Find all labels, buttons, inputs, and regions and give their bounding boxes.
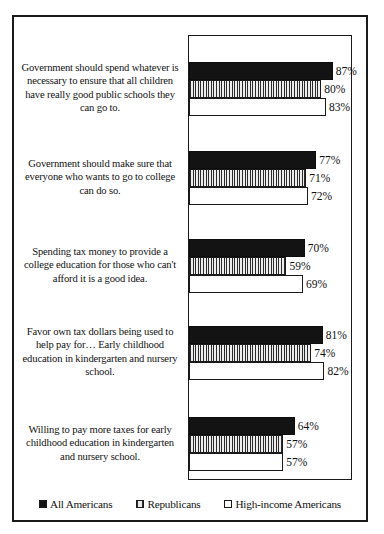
bar-all-americans[interactable] (189, 151, 316, 169)
bar-row: 70% (189, 239, 351, 257)
bar-row: 74% (189, 344, 351, 362)
bar-republicans[interactable] (189, 344, 311, 362)
bar-value-label: 80% (321, 83, 345, 95)
bar-row: 57% (189, 453, 351, 471)
legend-label: All Americans (50, 498, 112, 510)
bar-value-label: 57% (283, 456, 307, 468)
bar-value-label: 77% (316, 154, 340, 166)
solid-black-square-icon (39, 500, 47, 508)
bar-value-label: 72% (308, 190, 332, 202)
bar-all-americans[interactable] (189, 239, 305, 257)
bar-value-label: 71% (306, 172, 330, 184)
chart-legend: All AmericansRepublicansHigh-income Amer… (14, 498, 366, 510)
category-label: Government should make sure that everyon… (18, 157, 182, 197)
bar-row: 72% (189, 187, 351, 205)
bar-value-label: 81% (323, 329, 347, 341)
bar-high-income-americans[interactable] (189, 453, 283, 471)
bar-group: 77%71%72% (189, 151, 351, 205)
bar-group: 64%57%57% (189, 417, 351, 471)
legend-item[interactable]: High-income Americans (224, 498, 340, 510)
category-label: Spending tax money to provide a college … (18, 245, 182, 285)
legend-item[interactable]: Republicans (136, 498, 200, 510)
bar-value-label: 64% (295, 420, 319, 432)
white-square-icon (224, 500, 232, 508)
bar-row: 64% (189, 417, 351, 435)
category-label: Government should spend whatever is nece… (18, 61, 182, 115)
bar-row: 82% (189, 362, 351, 380)
bar-republicans[interactable] (189, 257, 286, 275)
chart-body: Government should spend whatever is nece… (14, 17, 366, 520)
bar-high-income-americans[interactable] (189, 187, 308, 205)
legend-label: Republicans (147, 498, 200, 510)
category-label: Willing to pay more taxes for early chil… (18, 423, 182, 463)
legend-item[interactable]: All Americans (39, 498, 112, 510)
category-label: Favor own tax dollars being used to help… (18, 325, 182, 379)
category-label-column: Government should spend whatever is nece… (18, 35, 188, 480)
bar-all-americans[interactable] (189, 417, 295, 435)
bar-value-label: 59% (286, 260, 310, 272)
bar-row: 81% (189, 326, 351, 344)
bar-group: 70%59%69% (189, 239, 351, 293)
bar-value-label: 57% (283, 438, 307, 450)
bar-value-label: 82% (324, 365, 348, 377)
bar-group: 87%80%83% (189, 62, 351, 116)
legend-label: High-income Americans (235, 498, 340, 510)
bar-high-income-americans[interactable] (189, 275, 303, 293)
bar-row: 71% (189, 169, 351, 187)
bar-row: 83% (189, 98, 351, 116)
bar-row: 59% (189, 257, 351, 275)
bar-value-label: 87% (333, 65, 357, 77)
figure-frame: Government should spend whatever is nece… (12, 15, 368, 522)
bar-value-label: 74% (311, 347, 335, 359)
bar-value-label: 83% (326, 101, 350, 113)
bar-republicans[interactable] (189, 435, 283, 453)
bar-republicans[interactable] (189, 169, 306, 187)
bar-high-income-americans[interactable] (189, 362, 324, 380)
hatched-square-icon (136, 500, 144, 508)
bar-row: 57% (189, 435, 351, 453)
bar-all-americans[interactable] (189, 62, 333, 80)
bar-group: 81%74%82% (189, 326, 351, 380)
bar-value-label: 70% (305, 242, 329, 254)
bar-row: 69% (189, 275, 351, 293)
bar-row: 80% (189, 80, 351, 98)
bar-high-income-americans[interactable] (189, 98, 326, 116)
bar-value-label: 69% (303, 278, 327, 290)
bar-row: 87% (189, 62, 351, 80)
plot-area: 87%80%83%77%71%72%70%59%69%81%74%82%64%5… (188, 35, 352, 480)
bar-all-americans[interactable] (189, 326, 323, 344)
bar-republicans[interactable] (189, 80, 321, 98)
bar-row: 77% (189, 151, 351, 169)
